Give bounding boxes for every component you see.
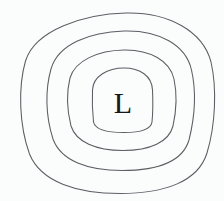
isobar-contour-canvas: L — [0, 0, 224, 201]
diagram-background — [0, 0, 224, 201]
isobar-diagram: L — [0, 0, 224, 201]
low-pressure-center-label: L — [114, 86, 132, 119]
